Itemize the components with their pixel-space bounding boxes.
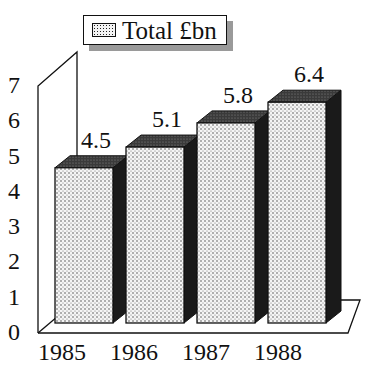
x-tick-label: 1988 xyxy=(254,340,302,364)
y-tick-label: 7 xyxy=(8,73,20,97)
y-tick-label: 3 xyxy=(8,214,20,238)
bar-1987 xyxy=(197,111,270,323)
x-tick-label: 1985 xyxy=(38,340,86,364)
y-tick-label: 2 xyxy=(8,249,20,273)
legend-swatch xyxy=(92,23,116,37)
x-tick-label: 1987 xyxy=(182,340,230,364)
data-label: 5.1 xyxy=(152,107,182,131)
bar-group xyxy=(55,90,341,323)
bar-1985 xyxy=(55,156,128,323)
data-label: 4.5 xyxy=(81,128,111,152)
y-tick-label: 5 xyxy=(8,144,20,168)
y-tick-label: 0 xyxy=(8,320,20,344)
bar-1988 xyxy=(268,90,341,323)
y-tick-label: 4 xyxy=(8,179,20,203)
bar-1986 xyxy=(126,135,199,323)
legend-label: Total £bn xyxy=(122,18,217,43)
y-tick-label: 1 xyxy=(8,285,20,309)
legend: Total £bn xyxy=(83,15,227,45)
x-tick-label: 1986 xyxy=(110,340,158,364)
data-label: 6.4 xyxy=(294,62,324,86)
chart-canvas xyxy=(0,0,382,387)
y-tick-label: 6 xyxy=(8,108,20,132)
data-label: 5.8 xyxy=(223,83,253,107)
